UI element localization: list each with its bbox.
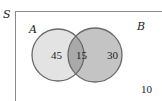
set-b-only-count: 30: [107, 49, 119, 61]
outside-count: 10: [141, 83, 153, 95]
universe-label: S: [3, 8, 11, 21]
set-a-only-count: 45: [51, 49, 63, 61]
venn-diagram: S A B 45 15 30 10: [0, 0, 162, 101]
intersection-count: 15: [76, 49, 88, 61]
set-b-label: B: [136, 20, 145, 33]
set-a-label: A: [28, 23, 37, 36]
